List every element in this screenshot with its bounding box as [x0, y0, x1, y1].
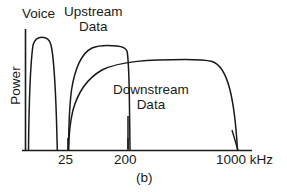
figure-caption: (b) — [136, 170, 153, 185]
voice-annotation-label: Voice — [22, 6, 55, 21]
downstream-annotation-label: Downstream Data — [113, 82, 189, 112]
downstream-annotation-line2: Data — [113, 97, 189, 112]
x-tick-label-200: 200 — [114, 152, 137, 167]
upstream-annotation-line2: Data — [64, 19, 123, 34]
y-axis-label: Power — [8, 58, 23, 114]
x-tick-label-25: 25 — [58, 152, 73, 167]
upstream-annotation-line1: Upstream — [64, 4, 123, 19]
downstream-annotation-line1: Downstream — [113, 82, 189, 97]
upstream-annotation-label: Upstream Data — [64, 4, 123, 34]
x-tick-label-1000: 1000 kHz — [216, 152, 273, 167]
adsl-spectrum-figure: Power Voice Upstream Data Downstream Dat… — [0, 0, 287, 192]
voice-curve — [29, 37, 58, 150]
